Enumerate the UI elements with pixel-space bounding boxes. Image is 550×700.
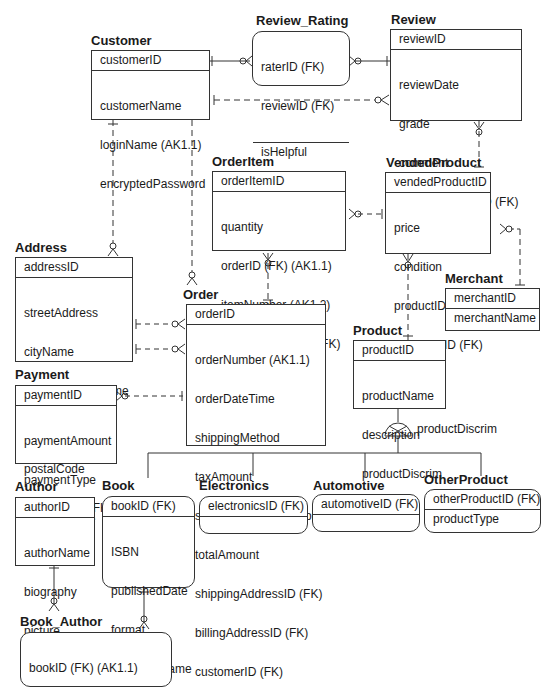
attribute: orderDateTime — [195, 393, 317, 406]
entity-title: Order — [183, 287, 218, 302]
attribute: ISBN — [111, 546, 186, 559]
attribute: publishedDate — [111, 585, 186, 598]
entity-title: Merchant — [445, 271, 503, 286]
attribute: encryptedPassword — [100, 178, 201, 191]
key-attribute: productID — [362, 344, 437, 357]
attribute: merchantName — [454, 312, 531, 325]
attribute: cityName — [24, 346, 124, 359]
attribute: shippingMethod — [195, 432, 317, 445]
attribute: loginName (AK1.1) — [100, 139, 201, 152]
entity-title: Customer — [91, 33, 152, 48]
key-attribute: orderItemID — [221, 175, 337, 188]
entity-title: OtherProduct — [424, 472, 508, 487]
attribute: billingAddressID (FK) — [195, 627, 317, 640]
key-attribute: bookID (FK) (AK1.1) — [29, 662, 163, 675]
key-attribute: customerID — [100, 54, 201, 67]
key-attribute: reviewID — [399, 33, 513, 46]
entity-title: Book_Author — [20, 614, 102, 629]
key-attribute: paymentID — [24, 389, 108, 402]
key-attribute: addressID — [24, 261, 124, 274]
entity-title: Book — [102, 478, 135, 493]
attribute: orderNumber (AK1.1) — [195, 354, 317, 367]
attribute: orderID (FK) (AK1.1) — [221, 260, 337, 273]
entity-title: Review — [391, 12, 436, 27]
key-attribute: automotiveID (FK) — [321, 498, 411, 511]
key-attribute: otherProductID (FK) — [433, 493, 532, 506]
attribute: quantity — [221, 221, 337, 234]
discriminator-label: productDiscrim — [417, 422, 497, 436]
attribute: authorName — [24, 547, 86, 560]
entity-title: Author — [15, 479, 58, 494]
attribute: customerName — [100, 100, 201, 113]
attribute: shippingAddressID (FK) — [195, 588, 317, 601]
attribute: productName — [362, 390, 437, 403]
key-attribute: merchantID — [454, 292, 531, 305]
key-attribute: vendedProductID — [394, 176, 482, 189]
key-attribute: electronicsID (FK) — [208, 500, 299, 513]
attribute: productType — [433, 513, 532, 526]
entity-title: Review_Rating — [256, 13, 348, 28]
entity-title: VendedProduct — [386, 155, 481, 170]
key-attribute: raterID (FK) — [261, 61, 341, 74]
attribute: customerID (FK) — [195, 666, 317, 679]
attribute: grade — [399, 118, 513, 131]
key-attribute: bookID (FK) — [111, 500, 186, 513]
attribute: biography — [24, 586, 86, 599]
attribute: price — [394, 222, 482, 235]
entity-title: Payment — [15, 367, 69, 382]
entity-title: Address — [15, 240, 67, 255]
attribute: streetAddress — [24, 307, 124, 320]
entity-title: Product — [353, 323, 402, 338]
entity-title: Automotive — [313, 478, 385, 493]
attribute: reviewDate — [399, 79, 513, 92]
entity-title: OrderItem — [212, 154, 274, 169]
key-attribute: authorID — [24, 501, 86, 514]
attribute: paymentAmount — [24, 435, 108, 448]
entity-title: Electronics — [199, 478, 269, 493]
key-attribute: reviewID (FK) — [261, 100, 341, 113]
key-attribute: orderID — [195, 308, 317, 321]
attribute: totalAmount — [195, 549, 317, 562]
